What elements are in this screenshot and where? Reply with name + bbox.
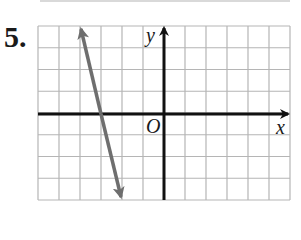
y-axis-label: y [146, 24, 155, 47]
graphed-line-down [101, 114, 121, 197]
origin-label: O [146, 115, 160, 138]
x-axis-label: x [276, 116, 285, 139]
graphed-line-up [81, 29, 101, 114]
